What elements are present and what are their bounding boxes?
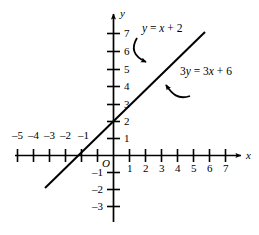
equation-label-2: 3y = 3x + 6 xyxy=(180,66,232,78)
x-tick-label--1: –1 xyxy=(78,130,89,141)
y-tick-label-3: 3 xyxy=(124,99,130,110)
x-tick-label-2: 2 xyxy=(143,163,149,174)
x-tick-label-3: 3 xyxy=(159,163,165,174)
y-tick-label--1: –1 xyxy=(92,167,103,178)
y-tick-label-5: 5 xyxy=(124,64,130,75)
x-tick-label-4: 4 xyxy=(175,163,181,174)
callout-arrow-line-1 xyxy=(134,38,146,62)
y-tick-label-2: 2 xyxy=(124,116,130,127)
y-tick-label--2: –2 xyxy=(92,184,103,195)
equation-2-rest: + 6 xyxy=(214,65,232,77)
y-tick-label--3: –3 xyxy=(92,201,103,212)
y-tick-label-6: 6 xyxy=(124,46,130,57)
equation-1-equals: = xyxy=(147,22,159,34)
y-tick-label-1: 1 xyxy=(124,133,130,144)
callout-arrow-line-2 xyxy=(166,85,190,97)
x-tick-label--2: –2 xyxy=(60,130,71,141)
x-tick-label-7: 7 xyxy=(223,163,229,174)
graph-figure: y x O –5 –4 –3 –2 –1 1 2 3 4 5 6 7 7 6 5… xyxy=(0,0,259,235)
y-axis-label: y xyxy=(120,8,125,19)
x-tick-label--3: –3 xyxy=(44,130,55,141)
equation-label-1: y = x + 2 xyxy=(142,23,182,35)
x-tick-label--5: –5 xyxy=(12,130,23,141)
x-tick-label-1: 1 xyxy=(127,163,133,174)
y-tick-label-7: 7 xyxy=(124,28,130,39)
x-tick-label--4: –4 xyxy=(28,130,39,141)
x-tick-label-5: 5 xyxy=(191,163,197,174)
equation-1-rest: + 2 xyxy=(164,22,182,34)
x-tick-label-6: 6 xyxy=(207,163,213,174)
y-tick-label-4: 4 xyxy=(124,81,130,92)
origin-label: O xyxy=(102,158,110,169)
equation-2-equals: = xyxy=(191,65,203,77)
x-axis-label: x xyxy=(246,150,251,161)
x-axis xyxy=(15,149,241,162)
